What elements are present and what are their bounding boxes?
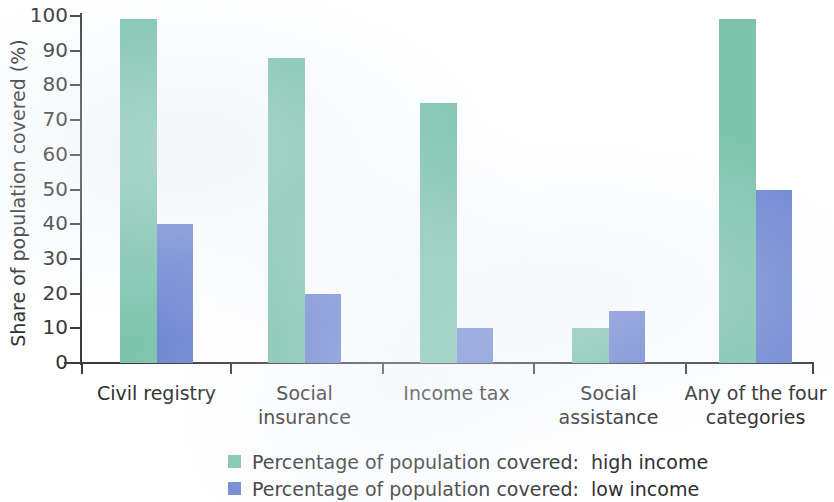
legend-label-high-income: Percentage of population covered: high i… <box>252 451 708 473</box>
category-label: Any of the fourcategories <box>666 381 834 429</box>
bar-high-income <box>572 328 609 363</box>
y-axis-tick-label: 90 <box>26 40 68 60</box>
y-axis-tick <box>70 154 80 156</box>
y-axis-tick <box>70 50 80 52</box>
legend-swatch-high-income <box>228 455 241 468</box>
bar-high-income <box>268 58 305 363</box>
x-axis-tick <box>382 364 384 374</box>
x-axis-tick <box>81 364 83 374</box>
x-axis-tick <box>230 364 232 374</box>
bar-low-income <box>457 328 493 363</box>
y-axis-tick-label: 100 <box>26 5 68 25</box>
y-axis-tick-labels: 1009080706050403020100 <box>0 0 68 502</box>
y-axis-tick-label: 50 <box>26 179 68 199</box>
y-axis-tick <box>70 119 80 121</box>
chart-legend: Percentage of population covered: high i… <box>228 448 748 502</box>
y-axis-tick-label: 10 <box>26 317 68 337</box>
bar-low-income <box>756 190 792 364</box>
bar-high-income <box>120 19 157 363</box>
y-axis-tick-label: 60 <box>26 144 68 164</box>
category-label-line: categories <box>666 405 834 429</box>
x-axis-tick <box>533 364 535 374</box>
legend-label-low-income: Percentage of population covered: low in… <box>252 478 699 500</box>
y-axis-tick <box>70 293 80 295</box>
legend-item-low-income: Percentage of population covered: low in… <box>228 475 748 502</box>
y-axis-tick-label: 70 <box>26 109 68 129</box>
y-axis-tick <box>70 223 80 225</box>
bar-low-income <box>609 311 645 363</box>
legend-item-high-income: Percentage of population covered: high i… <box>228 448 748 475</box>
y-axis-tick-label: 40 <box>26 213 68 233</box>
legend-swatch-low-income <box>228 482 241 495</box>
bar-low-income <box>157 224 193 363</box>
bar-low-income <box>305 294 341 363</box>
bar-high-income <box>420 103 457 363</box>
y-axis-tick-label: 30 <box>26 248 68 268</box>
plot-area <box>80 16 814 363</box>
bar-high-income <box>719 19 756 363</box>
bar-chart-figure: Share of population covered (%) 10090807… <box>0 0 834 502</box>
category-label-line: insurance <box>215 405 395 429</box>
y-axis-tick <box>70 258 80 260</box>
y-axis-tick <box>70 327 80 329</box>
y-axis-tick-label: 20 <box>26 283 68 303</box>
y-axis-tick-label: 0 <box>26 352 68 372</box>
y-axis-tick <box>70 15 80 17</box>
y-axis-tick <box>70 84 80 86</box>
x-axis-tick <box>685 364 687 374</box>
category-label-line: Any of the four <box>666 381 834 405</box>
y-axis-tick-label: 80 <box>26 74 68 94</box>
y-axis-tick <box>70 189 80 191</box>
x-axis-tick <box>812 364 814 374</box>
